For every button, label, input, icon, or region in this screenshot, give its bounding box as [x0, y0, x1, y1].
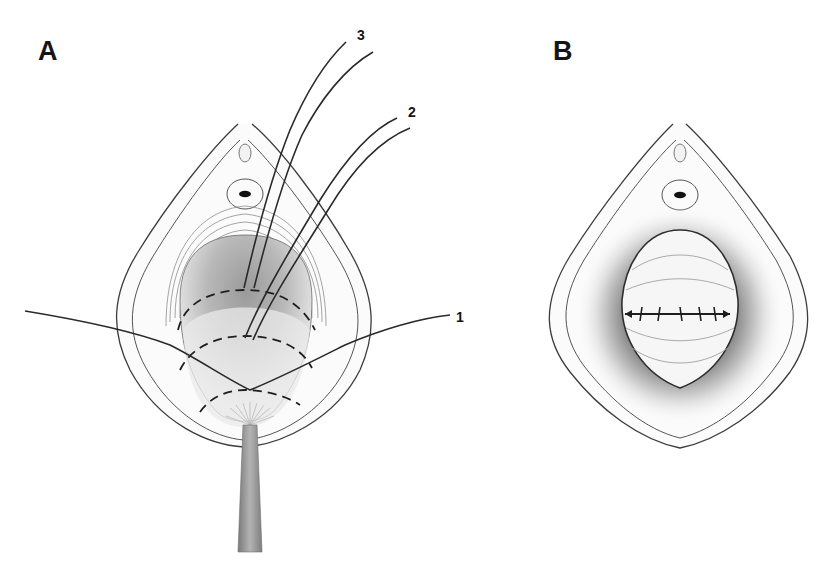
illustration-canvas — [0, 0, 824, 570]
panel-b-drawing — [549, 124, 807, 448]
urethral-meatus-a — [239, 144, 251, 162]
urethral-meatus-b — [674, 144, 686, 162]
opening-dot-a — [239, 191, 251, 197]
panel-a-drawing — [25, 42, 450, 552]
opening-dot-b — [674, 192, 686, 198]
